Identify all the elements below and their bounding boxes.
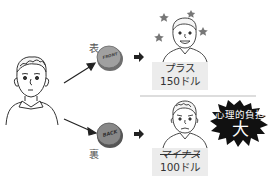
- heads-label: 表: [89, 40, 99, 55]
- branch-arrows: [64, 63, 96, 135]
- diagram-canvas: [0, 0, 272, 181]
- person-happy-icon: [163, 18, 207, 62]
- person-worried-icon: [163, 101, 207, 148]
- person-neutral-icon: [6, 57, 58, 125]
- burden-callout: 心理的負担 大: [212, 109, 268, 139]
- outcome-tails-box: マイナス 100ドル: [152, 148, 208, 176]
- outcome-heads-box: プラス 150ドル: [152, 62, 208, 90]
- outcome-heads-line2: 150ドル: [152, 75, 208, 88]
- outcome-heads-line1: プラス: [152, 62, 208, 75]
- star-icons: [154, 10, 208, 42]
- tails-label: 裏: [89, 146, 99, 161]
- outcome-tails-line1: マイナス: [152, 148, 208, 161]
- burden-callout-line2: 大: [212, 120, 268, 139]
- outcome-tails-line2: 100ドル: [152, 161, 208, 174]
